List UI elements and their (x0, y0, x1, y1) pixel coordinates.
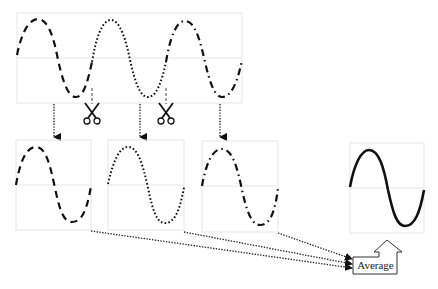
merge-arrow-1 (91, 231, 352, 268)
merge-arrow-3 (278, 233, 352, 259)
segment-panel-dashed (16, 140, 91, 230)
top-signal-panel (17, 13, 242, 103)
average-label: Average (353, 257, 398, 274)
segment-panel-dotted (108, 140, 184, 230)
cut-marker-1 (84, 88, 100, 124)
top-wave-dashdot (166, 21, 242, 97)
segment-panel-dashdot (202, 141, 278, 232)
cut-marker-2 (158, 88, 174, 124)
scissors-icon (158, 103, 174, 124)
merge-arrow-2 (184, 232, 352, 264)
scissors-icon (84, 103, 100, 124)
averaged-result-panel (350, 143, 424, 233)
diagram-canvas (0, 0, 438, 289)
